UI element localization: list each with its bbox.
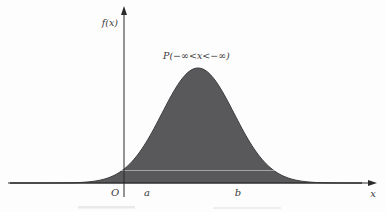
probability-label: P(−∞<x<−∞) [162,50,230,61]
normal-curve-area [10,68,362,183]
y-axis-arrowhead-icon [121,6,127,15]
x-axis-arrowhead-icon [368,180,377,186]
figure-canvas: f(x) P(−∞<x<−∞) O a b x [0,0,386,212]
origin-label: O [111,187,119,198]
y-axis-label: f(x) [101,17,119,28]
caption-remnant-left [78,206,135,209]
a-tick-label: a [144,187,150,198]
caption-remnant-right [213,207,281,209]
b-tick-label: b [235,187,241,198]
distribution-figure: f(x) P(−∞<x<−∞) O a b x [0,0,386,212]
x-axis-label: x [370,188,376,199]
